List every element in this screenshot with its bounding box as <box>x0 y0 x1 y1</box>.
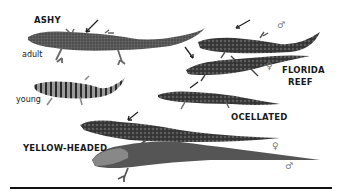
ocellated-gecko <box>158 82 280 109</box>
bottom-divider <box>10 187 332 189</box>
label-ashy: ASHY <box>34 15 61 25</box>
yellow-headed-female-symbol: ♀ <box>272 141 279 151</box>
label-ocellated: OCELLATED <box>231 112 287 122</box>
florida-male-symbol: ♂ <box>277 20 285 30</box>
label-florida-reef-1: FLORIDA <box>282 65 325 75</box>
ashy-adult-gecko <box>28 20 205 65</box>
label-yellow-headed: YELLOW-HEADED <box>23 143 107 153</box>
florida-female-symbol: ♀ <box>266 61 273 71</box>
ashy-young-gecko <box>34 76 125 105</box>
florida-reef-male-gecko <box>198 20 320 58</box>
label-florida-reef-2: REEF <box>288 77 313 87</box>
yellow-headed-male-symbol: ♂ <box>285 161 293 171</box>
label-ashy-adult: adult <box>22 50 42 59</box>
label-ashy-young: young <box>16 95 41 104</box>
